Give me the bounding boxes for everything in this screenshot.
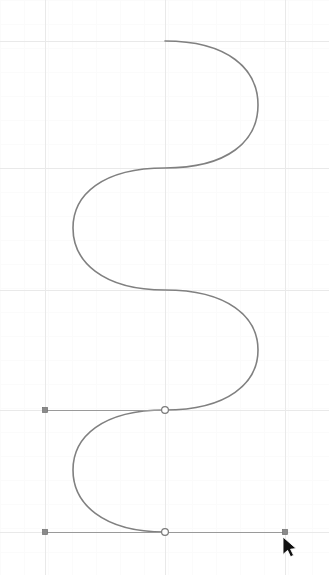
control-point-filled[interactable]: [43, 530, 48, 535]
canvas-surface[interactable]: [0, 0, 329, 575]
anchor-point-hollow[interactable]: [162, 407, 169, 414]
control-point-filled[interactable]: [43, 408, 48, 413]
canvas-background: [0, 0, 329, 575]
anchor-point-hollow[interactable]: [162, 529, 169, 536]
vector-curve-editor-canvas[interactable]: [0, 0, 329, 575]
control-point-filled[interactable]: [283, 530, 288, 535]
